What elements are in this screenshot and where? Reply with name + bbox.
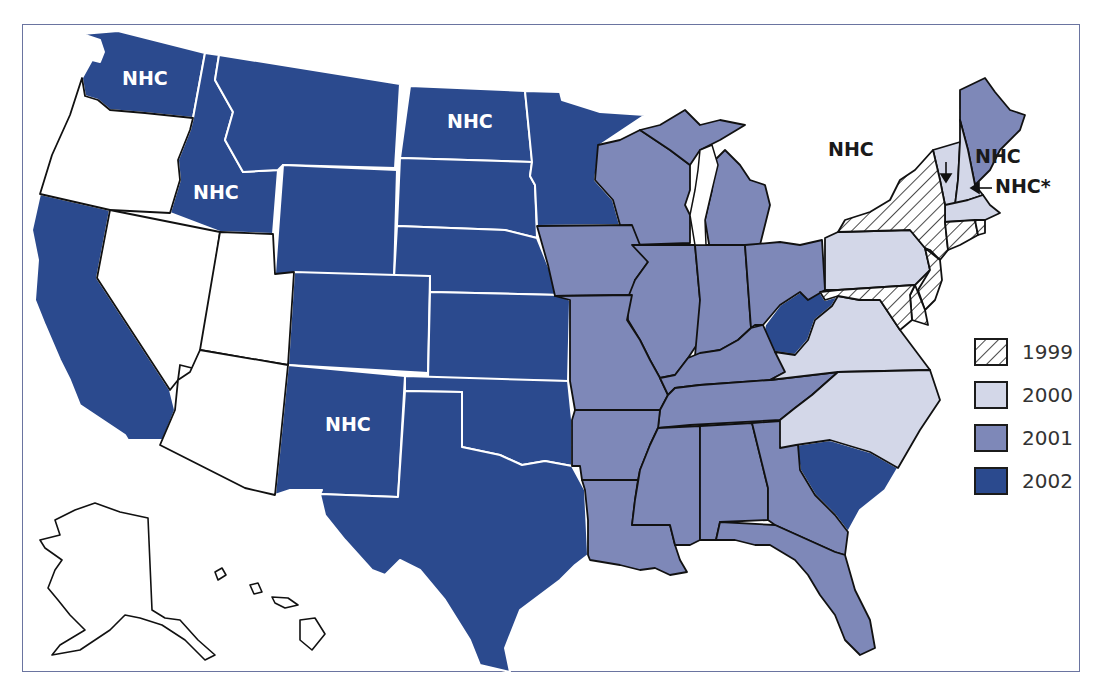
label-nh: NHC* [995,175,1051,197]
legend-label: 2000 [1022,383,1073,407]
legend-item-2001: 2001 [974,423,1073,453]
legend: 1999 2000 2001 2002 [974,337,1073,509]
state-pennsylvania [825,230,930,290]
legend-swatch-hatched [974,338,1008,366]
state-iowa [537,225,648,296]
label-nm: NHC [325,413,371,435]
us-map: NHC NHC NHC NHC NHC NHC NHC* [0,0,1099,692]
state-kansas [428,292,570,381]
legend-item-2000: 2000 [974,380,1073,410]
legend-swatch-medium [974,424,1008,452]
label-vt: NHC [828,138,874,160]
state-hawaii-niihau [215,568,226,580]
legend-swatch-light [974,381,1008,409]
label-wa: NHC [122,67,168,89]
legend-label: 1999 [1022,340,1073,364]
label-id: NHC [193,181,239,203]
state-hawaii-oahu [250,583,262,594]
legend-swatch-dark [974,467,1008,495]
state-colorado [288,272,430,373]
legend-label: 2002 [1022,469,1073,493]
state-alaska [40,503,215,660]
legend-item-2002: 2002 [974,466,1073,496]
state-wyoming [275,165,397,278]
state-montana [215,55,400,172]
state-florida [716,522,875,655]
state-hawaii-big-island [300,618,325,650]
label-nd: NHC [447,110,493,132]
legend-item-1999: 1999 [974,337,1073,367]
state-hawaii-maui [272,597,298,608]
legend-label: 2001 [1022,426,1073,450]
state-connecticut [945,220,978,250]
label-me: NHC [975,145,1021,167]
